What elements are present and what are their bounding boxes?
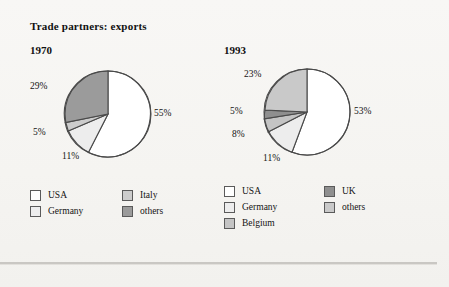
legend-swatch-germany <box>224 202 235 213</box>
legend-swatch-italy <box>122 190 133 201</box>
pie-label-others: 29% <box>30 82 47 92</box>
legend-label-italy: Italy <box>140 191 157 201</box>
pie-label-uk: 5% <box>230 107 243 117</box>
pie-chart-1993: 53% 11% 8% 5% 23% <box>222 46 394 164</box>
pie-label-usa: 55% <box>154 109 171 119</box>
legend-label-germany: Germany <box>48 207 83 217</box>
legend-label-usa: USA <box>48 191 67 201</box>
legend-label-uk: UK <box>342 187 356 197</box>
footer-divider-shadow <box>0 264 437 265</box>
pie-chart-1970: 55% 11% 5% 29% <box>28 52 200 170</box>
legend-label-others: others <box>140 207 163 217</box>
legend-label-others: others <box>342 203 365 213</box>
legend-swatch-others <box>122 206 133 217</box>
legend-swatch-belgium <box>224 218 235 229</box>
legend-swatch-uk <box>324 186 335 197</box>
legend-item-uk[interactable]: UK <box>324 186 402 197</box>
pie-label-usa: 53% <box>354 107 371 117</box>
pie-label-belgium: 8% <box>232 130 245 140</box>
legend-item-belgium[interactable]: Belgium <box>224 218 310 229</box>
legend-swatch-usa <box>224 186 235 197</box>
legend-item-usa[interactable]: USA <box>224 186 310 197</box>
legend-1970: USA Italy Germany others <box>30 190 200 217</box>
legend-item-others[interactable]: others <box>324 202 402 213</box>
legend-item-italy[interactable]: Italy <box>122 190 200 201</box>
figure-page: Trade partners: exports 1970 55% 11% 5% … <box>0 0 449 287</box>
legend-swatch-others <box>324 202 335 213</box>
pie-label-germany: 11% <box>263 154 280 164</box>
legend-item-germany[interactable]: Germany <box>224 202 310 213</box>
pie-slice-others <box>265 69 307 112</box>
pie-label-italy: 5% <box>33 128 46 138</box>
legend-item-germany[interactable]: Germany <box>30 206 108 217</box>
legend-1993: USA Germany Belgium UK others <box>224 186 402 229</box>
legend-label-usa: USA <box>242 187 261 197</box>
legend-label-belgium: Belgium <box>242 219 275 229</box>
figure-title: Trade partners: exports <box>30 20 147 32</box>
pie-label-others: 23% <box>244 70 261 80</box>
legend-swatch-germany <box>30 206 41 217</box>
legend-item-others[interactable]: others <box>122 206 200 217</box>
legend-label-germany: Germany <box>242 203 277 213</box>
legend-item-usa[interactable]: USA <box>30 190 108 201</box>
pie-slice-others <box>64 71 108 123</box>
legend-swatch-usa <box>30 190 41 201</box>
pie-svg-1970 <box>28 52 200 170</box>
pie-label-germany: 11% <box>62 152 79 162</box>
